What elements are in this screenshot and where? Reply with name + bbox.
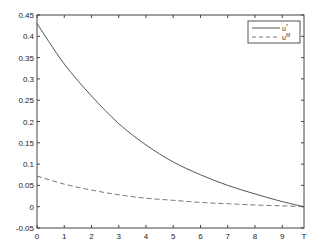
- legend-box: [248, 21, 300, 43]
- y-tick-label: 0.4: [23, 32, 35, 41]
- x-tick-label: 3: [117, 232, 122, 241]
- x-tick-label: 8: [253, 232, 258, 241]
- y-tick-label: 0.2: [23, 118, 35, 127]
- x-tick-label: 1: [62, 232, 67, 241]
- y-tick-label: 0.05: [18, 181, 34, 190]
- x-tick-label: 7: [225, 232, 230, 241]
- x-tick-label: T: [302, 232, 307, 241]
- x-tick-label: 5: [171, 232, 176, 241]
- y-tick-label: 0.45: [18, 11, 34, 20]
- x-tick-label: 4: [144, 232, 149, 241]
- x-tick-label: 0: [35, 232, 40, 241]
- y-tick-label: 0.1: [23, 160, 35, 169]
- line-chart: 0123456789T-0.0500.050.10.150.20.250.30.…: [0, 0, 321, 250]
- y-tick-label: 0.25: [18, 96, 34, 105]
- x-tick-label: 2: [89, 232, 94, 241]
- x-tick-label: 9: [280, 232, 285, 241]
- y-tick-label: 0.35: [18, 54, 34, 63]
- y-tick-label: -0.05: [16, 224, 35, 233]
- y-tick-label: 0: [30, 203, 35, 212]
- y-tick-label: 0.15: [18, 139, 34, 148]
- x-tick-label: 6: [198, 232, 203, 241]
- legend: u*uM: [248, 21, 300, 43]
- y-tick-label: 0.3: [23, 75, 35, 84]
